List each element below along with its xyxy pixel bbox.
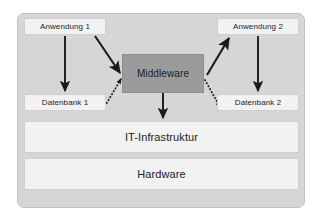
diagram-canvas: Anwendung 1 Anwendung 2 Middleware Daten… [0, 0, 320, 216]
node-datenbank-2[interactable]: Datenbank 2 [217, 94, 299, 111]
node-anwendung-2[interactable]: Anwendung 2 [217, 18, 299, 35]
node-it-infrastruktur[interactable]: IT-Infrastruktur [24, 121, 299, 153]
node-middleware[interactable]: Middleware [122, 54, 204, 93]
node-anwendung-1[interactable]: Anwendung 1 [24, 18, 106, 35]
node-datenbank-1[interactable]: Datenbank 1 [24, 94, 106, 111]
node-hardware[interactable]: Hardware [24, 158, 299, 190]
